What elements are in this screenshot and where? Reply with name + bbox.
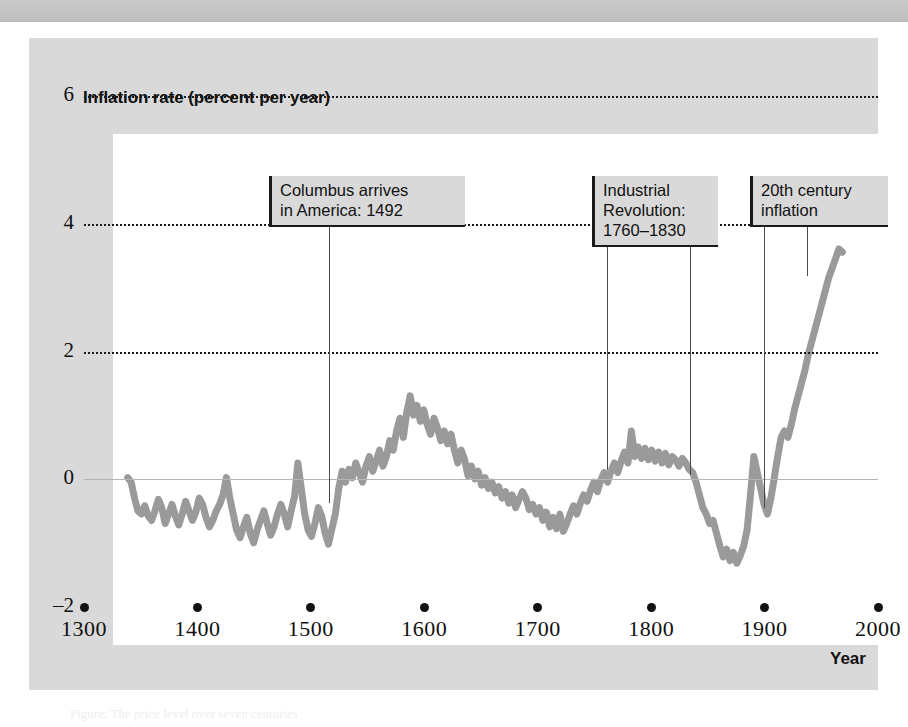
- y-tick-label-2: 2: [40, 338, 74, 363]
- x-tick-dot-1700: [533, 603, 542, 612]
- gridline-2: [84, 352, 878, 354]
- leader-line-twentieth-2: [807, 227, 808, 276]
- y-tick-label--2: –2: [40, 593, 74, 618]
- annotation-columbus: Columbus arrives in America: 1492: [269, 176, 465, 227]
- x-tick-label-1800: 1800: [611, 616, 691, 642]
- x-tick-label-1500: 1500: [271, 616, 351, 642]
- annotation-twentieth: 20th century inflation: [750, 176, 888, 227]
- x-tick-label-1700: 1700: [498, 616, 578, 642]
- y-axis-title: Inflation rate (percent per year): [83, 88, 330, 108]
- x-tick-dot-1500: [306, 603, 315, 612]
- x-tick-label-1300: 1300: [44, 616, 124, 642]
- y-tick-label-0: 0: [40, 465, 74, 490]
- leader-line-industrial-1: [607, 247, 608, 470]
- figure-panel: Inflation rate (percent per year) 6420–2…: [29, 38, 878, 690]
- x-tick-dot-2000: [874, 603, 883, 612]
- x-tick-dot-1800: [647, 603, 656, 612]
- x-tick-dot-1900: [760, 603, 769, 612]
- leader-line-industrial-2: [690, 247, 691, 475]
- x-tick-label-1600: 1600: [384, 616, 464, 642]
- x-tick-label-1900: 1900: [725, 616, 805, 642]
- x-tick-label-2000: 2000: [838, 616, 908, 642]
- x-tick-dot-1300: [80, 603, 89, 612]
- x-axis-title: Year: [830, 649, 866, 669]
- x-tick-label-1400: 1400: [157, 616, 237, 642]
- zero-line: [84, 479, 878, 480]
- scan-artifact-band: [0, 0, 908, 22]
- x-tick-dot-1400: [193, 603, 202, 612]
- leader-line-twentieth-1: [764, 227, 765, 508]
- leader-line-columbus-1: [329, 227, 330, 503]
- x-tick-dot-1600: [420, 603, 429, 612]
- annotation-industrial: Industrial Revolution: 1760–1830: [592, 176, 718, 247]
- figure-caption: Figure: The price level over seven centu…: [70, 706, 830, 724]
- y-tick-label-6: 6: [40, 82, 74, 107]
- y-tick-label-4: 4: [40, 210, 74, 235]
- gridline-6: [84, 96, 878, 98]
